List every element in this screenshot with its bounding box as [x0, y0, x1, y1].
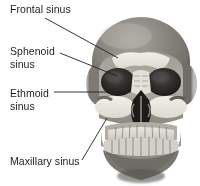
label-sphenoid-sinus: Sphenoid sinus	[10, 45, 55, 70]
label-frontal-sinus: Frontal sinus	[10, 3, 71, 16]
label-ethmoid-sinus: Ethmoid sinus	[10, 87, 49, 112]
mandible-lower-teeth	[101, 132, 181, 183]
sinus-diagram-figure: Frontal sinus Sphenoid sinus Ethmoid sin…	[0, 0, 200, 186]
label-maxillary-sinus: Maxillary sinus	[10, 155, 80, 168]
